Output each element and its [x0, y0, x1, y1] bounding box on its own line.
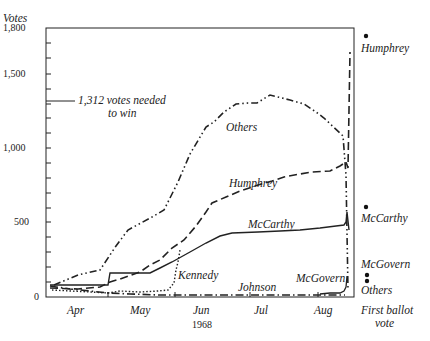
threshold-label-1: 1,312 votes needed [78, 94, 166, 107]
x-label-apr: Apr [66, 304, 85, 317]
final-humphrey: Humphrey [360, 42, 410, 55]
label-humphrey: Humphrey [228, 177, 278, 190]
y-tick-1000: 1,000 [3, 142, 26, 153]
label-others: Others [226, 121, 258, 133]
x-label-jul: Jul [254, 304, 268, 316]
dot-humphrey [364, 34, 368, 38]
x-label-aug: Aug [313, 304, 333, 317]
final-mccarthy: McCarthy [360, 212, 409, 225]
dot-mcgovern [365, 273, 369, 277]
y-tick-500: 500 [14, 216, 29, 227]
final-mcgovern: McGovern [360, 258, 410, 270]
final-label-2: vote [375, 317, 394, 329]
label-johnson: Johnson [238, 281, 277, 293]
y-tick-1500: 1,500 [3, 68, 26, 79]
x-label-jun: Jun [193, 304, 210, 316]
plot-frame [46, 28, 354, 297]
series-johnson [50, 286, 345, 295]
series-humphrey [50, 52, 350, 289]
series-others [54, 95, 348, 290]
y-ticks [46, 43, 318, 297]
vote-chart: Votes 1,800 1,500 1,000 500 0 Apr May Ju… [0, 0, 430, 341]
final-others: Others [361, 284, 393, 296]
x-label-may: May [129, 304, 151, 317]
label-kennedy: Kennedy [177, 269, 219, 282]
y-tick-1800: 1,800 [3, 22, 26, 33]
label-mccarthy: McCarthy [247, 218, 296, 231]
x-label-year: 1968 [192, 319, 212, 330]
final-label-1: First ballot [360, 304, 414, 316]
label-mcgovern: McGovern [295, 272, 345, 284]
threshold-label-2: to win [108, 107, 137, 119]
dot-mccarthy [364, 205, 368, 209]
y-tick-0: 0 [34, 291, 39, 302]
dot-others [365, 279, 369, 283]
series-kennedy [52, 250, 180, 293]
